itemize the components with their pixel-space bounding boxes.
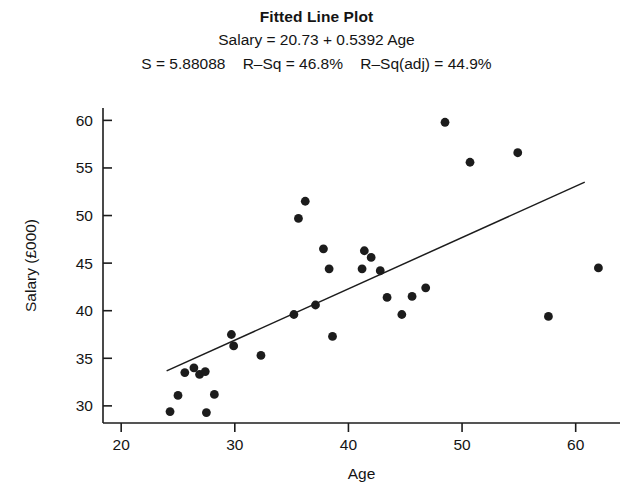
data-point (227, 330, 236, 339)
x-axis-tick-label: 40 (340, 436, 358, 453)
x-axis-tick-label: 20 (113, 436, 131, 453)
regression-line (167, 182, 585, 371)
data-point (383, 293, 392, 302)
data-points-group (166, 118, 603, 417)
plot-area: 30354045505560 2030405060 AgeSalary (£00… (0, 0, 633, 501)
data-point (408, 292, 417, 301)
y-axis-tick-label: 50 (76, 207, 94, 224)
y-axis-tick-label: 35 (76, 350, 93, 367)
regression-line-group (167, 182, 585, 371)
x-axis-tick-label: 60 (567, 436, 585, 453)
data-point (421, 283, 430, 292)
data-point (544, 312, 553, 321)
data-point (319, 244, 328, 253)
data-point (201, 367, 210, 376)
data-point (202, 408, 211, 417)
data-point (367, 253, 376, 262)
data-point (328, 332, 337, 341)
y-axis-title: Salary (£000) (22, 219, 39, 312)
x-axis-tick-label: 50 (453, 436, 471, 453)
fitted-line-plot-figure: Fitted Line Plot Salary = 20.73 + 0.5392… (0, 0, 633, 501)
data-point (294, 214, 303, 223)
data-point (441, 118, 450, 127)
data-point (360, 246, 369, 255)
y-axis: 30354045505560 (76, 108, 112, 423)
y-axis-tick-label: 45 (76, 255, 93, 272)
y-axis-tick-label: 30 (76, 397, 94, 414)
data-point (210, 390, 219, 399)
x-axis-tick-label: 30 (226, 436, 244, 453)
data-point (180, 368, 189, 377)
data-point (397, 310, 406, 319)
y-axis-tick-label: 40 (76, 302, 94, 319)
data-point (174, 391, 183, 400)
data-point (358, 264, 367, 273)
data-point (257, 351, 266, 360)
scatter-plot-canvas: 30354045505560 2030405060 AgeSalary (£00… (0, 0, 633, 501)
data-point (166, 407, 175, 416)
x-axis-title: Age (348, 465, 376, 482)
data-point (466, 158, 475, 167)
y-axis-tick-label: 60 (76, 112, 94, 129)
y-axis-tick-label: 55 (76, 159, 93, 176)
data-point (513, 148, 522, 157)
data-point (190, 363, 199, 372)
data-point (301, 197, 310, 206)
x-axis: 2030405060 (103, 423, 620, 453)
data-point (594, 263, 603, 272)
data-point (325, 264, 334, 273)
